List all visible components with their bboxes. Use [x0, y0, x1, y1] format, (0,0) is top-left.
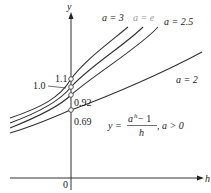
label-a-e: a = e: [133, 12, 155, 23]
intercept-point-a-3: [69, 77, 74, 82]
intercept-point-a-e: [69, 85, 74, 90]
intercept-label-1-0: 1.0: [33, 80, 46, 91]
label-a-2: a = 2: [176, 74, 198, 85]
formula-condition: , a > 0: [157, 120, 184, 131]
label-a-3: a = 3: [102, 12, 124, 23]
curve-a-3: [10, 27, 128, 118]
origin-label: 0: [63, 179, 68, 190]
chart-figure: y h 0 1.1 1.0 0.92 0.69 a = 3 a = e a = …: [0, 0, 211, 193]
h-axis-arrow-icon: [197, 176, 204, 181]
formula-numerator-rest: − 1: [138, 113, 151, 124]
formula-denominator: h: [139, 127, 144, 138]
curve-a-e: [10, 27, 143, 123]
leader-line-1-0: [48, 86, 66, 88]
y-axis-arrow-icon: [69, 12, 74, 19]
intercept-label-1-1: 1.1: [55, 73, 68, 84]
formula-lhs: y =: [107, 120, 122, 131]
intercept-label-0-92: 0.92: [74, 97, 92, 108]
intercept-label-0-69: 0.69: [74, 116, 92, 127]
formula: y = a h − 1 h , a > 0: [107, 112, 184, 138]
intercept-point-a-2-5: [69, 93, 74, 98]
y-axis-label: y: [66, 1, 72, 12]
h-axis-label: h: [205, 173, 210, 184]
formula-numerator-base: a: [128, 113, 133, 124]
label-a-2-5: a = 2.5: [164, 16, 193, 27]
intercept-point-a-2: [69, 108, 74, 113]
